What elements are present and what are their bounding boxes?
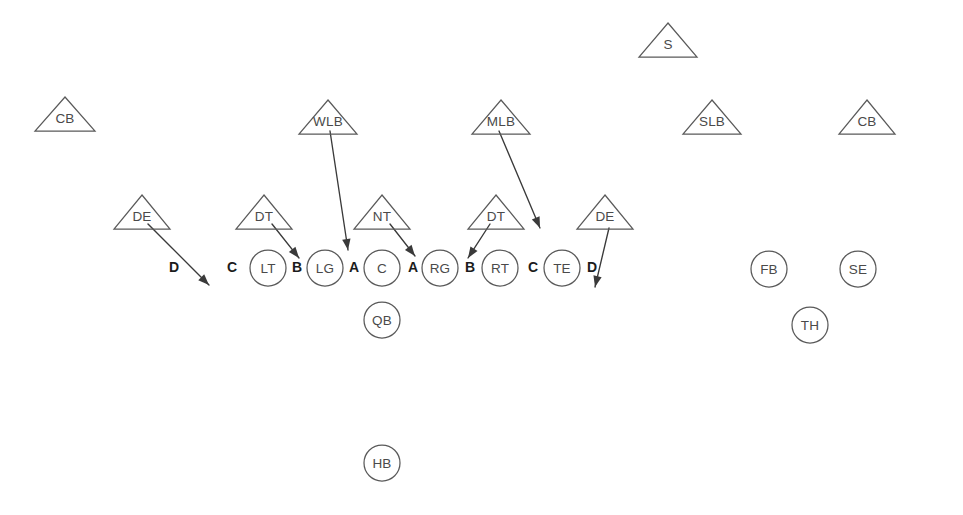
player-label: FB <box>760 262 778 277</box>
player-label: S <box>663 37 672 52</box>
offense-player-layer: LTLGCRGRTTEQBHBFBSETH <box>250 250 876 481</box>
player-label: HB <box>372 456 391 471</box>
defense-player-wlb[interactable]: WLB <box>299 100 357 134</box>
offense-player-lg[interactable]: LG <box>307 250 343 286</box>
player-label: DE <box>595 209 614 224</box>
offense-player-fb[interactable]: FB <box>751 251 787 287</box>
gap-label: C <box>227 259 237 275</box>
defense-player-de[interactable]: DE <box>114 195 170 229</box>
offense-player-c[interactable]: C <box>364 250 400 286</box>
offense-player-lt[interactable]: LT <box>250 250 286 286</box>
gap-label: D <box>587 259 597 275</box>
player-label: WLB <box>313 114 343 129</box>
assignment-arrow <box>148 224 209 285</box>
offense-player-rt[interactable]: RT <box>482 250 518 286</box>
gap-label: A <box>349 259 359 275</box>
assignment-arrow <box>593 228 609 287</box>
defense-player-dt[interactable]: DT <box>236 195 292 229</box>
defense-player-layer: CBSSLBCBWLBMLBDEDTNTDTDE <box>35 23 895 229</box>
player-label: QB <box>372 313 392 328</box>
player-label: SE <box>849 262 867 277</box>
offense-player-se[interactable]: SE <box>840 251 876 287</box>
gap-label: C <box>528 259 538 275</box>
player-label: DT <box>255 209 273 224</box>
player-label: RT <box>491 261 509 276</box>
player-label: LT <box>260 261 275 276</box>
offense-player-te[interactable]: TE <box>544 250 580 286</box>
defense-player-cb[interactable]: CB <box>839 100 895 134</box>
player-label: SLB <box>699 114 725 129</box>
assignment-arrow <box>330 131 351 250</box>
player-label: DE <box>132 209 151 224</box>
defense-player-cb[interactable]: CB <box>35 97 95 131</box>
defense-player-de[interactable]: DE <box>577 195 633 229</box>
defense-player-nt[interactable]: NT <box>354 195 410 229</box>
defense-player-dt[interactable]: DT <box>468 195 524 229</box>
defense-player-slb[interactable]: SLB <box>683 100 741 134</box>
player-label: TE <box>553 261 571 276</box>
offense-player-hb[interactable]: HB <box>364 445 400 481</box>
player-label: RG <box>430 261 451 276</box>
gap-label: B <box>292 259 302 275</box>
play-diagram-svg: CBSSLBCBWLBMLBDEDTNTDTDE LTLGCRGRTTEQBHB… <box>0 0 963 515</box>
player-label: C <box>377 261 387 276</box>
player-label: MLB <box>487 114 515 129</box>
defense-player-mlb[interactable]: MLB <box>472 100 530 134</box>
player-label: DT <box>487 209 505 224</box>
offense-player-qb[interactable]: QB <box>364 302 400 338</box>
offense-player-rg[interactable]: RG <box>422 250 458 286</box>
gap-label: D <box>169 259 179 275</box>
gap-label: B <box>465 259 475 275</box>
player-label: NT <box>373 209 391 224</box>
play-diagram-canvas: CBSSLBCBWLBMLBDEDTNTDTDE LTLGCRGRTTEQBHB… <box>0 0 963 515</box>
player-label: CB <box>857 114 876 129</box>
player-label: LG <box>316 261 334 276</box>
player-label: TH <box>801 318 819 333</box>
gap-label: A <box>408 259 418 275</box>
player-label: CB <box>55 111 74 126</box>
defense-player-s[interactable]: S <box>639 23 697 57</box>
offense-player-th[interactable]: TH <box>792 307 828 343</box>
